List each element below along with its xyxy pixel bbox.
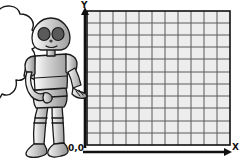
robot-arm-right: [66, 54, 87, 98]
x-axis: [83, 148, 232, 156]
robot-leg-right: [48, 106, 68, 157]
robot-leg-left: [26, 106, 48, 157]
y-axis-label: Y: [81, 0, 88, 10]
robot-torso: [34, 54, 67, 90]
robot-eye-left: [38, 28, 50, 41]
grid-cells: [87, 11, 230, 145]
robot-head: [32, 18, 70, 50]
diagram-canvas: Y 0,0 X d id o e e i: [0, 0, 239, 163]
robot-character: [22, 14, 88, 163]
robot-nose: [49, 39, 52, 42]
x-axis-label: X: [232, 142, 239, 152]
robot-eye-right: [52, 28, 64, 41]
